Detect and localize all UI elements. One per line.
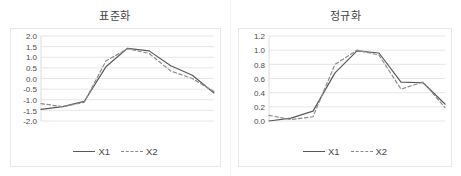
legend-normalization: X1 X2 <box>239 146 451 157</box>
y-axis-tick-label: 2.0 <box>26 32 38 41</box>
y-axis-tick-label: -1.0 <box>23 96 37 105</box>
legend-label-x2: X2 <box>146 146 158 157</box>
chart-panel-standardization: 표준화 2.01.51.00.50.0-0.5-1.0-1.5-2.0 X1 X… <box>0 0 230 176</box>
legend-entry-x2: X2 <box>121 146 158 157</box>
y-axis-tick-label: -1.5 <box>23 107 37 116</box>
y-axis-tick-label: 0.6 <box>254 75 266 84</box>
legend-line-swatch-solid-icon <box>303 147 325 156</box>
legend-entry-x1: X1 <box>303 146 340 157</box>
y-axis-tick-label: -2.0 <box>23 117 37 126</box>
y-axis-tick-label: 1.5 <box>26 43 38 52</box>
y-axis-tick-label: 0.2 <box>254 103 266 112</box>
y-axis-tick-label: -0.5 <box>23 85 37 94</box>
y-axis-tick-label: 1.0 <box>254 46 266 55</box>
y-axis-tick-label: 0.0 <box>26 75 38 84</box>
legend-line-swatch-dashed-icon <box>121 147 143 156</box>
legend-standardization: X1 X2 <box>11 146 220 157</box>
legend-label-x1: X1 <box>98 146 110 157</box>
chart-panel-normalization: 정규화 1.21.00.80.60.40.20.0 X1 X2 <box>230 0 461 176</box>
plot-frame-normalization: 1.21.00.80.60.40.20.0 X1 X2 <box>238 28 452 167</box>
legend-line-swatch-dashed-icon <box>351 147 373 156</box>
legend-entry-x1: X1 <box>73 146 110 157</box>
series-line-x2 <box>269 50 445 119</box>
series-line-x1 <box>269 51 445 121</box>
y-axis-tick-label: 1.2 <box>254 32 266 41</box>
legend-label-x2: X2 <box>376 146 388 157</box>
y-axis-tick-label: 1.0 <box>26 53 38 62</box>
y-axis-tick-label: 0.0 <box>254 117 266 126</box>
plot-frame-standardization: 2.01.51.00.50.0-0.5-1.0-1.5-2.0 X1 X2 <box>10 28 221 167</box>
legend-line-swatch-solid-icon <box>73 147 95 156</box>
legend-entry-x2: X2 <box>351 146 388 157</box>
y-axis-tick-label: 0.8 <box>254 61 266 70</box>
y-axis-tick-label: 0.4 <box>254 89 266 98</box>
legend-label-x1: X1 <box>328 146 340 157</box>
y-axis-tick-label: 0.5 <box>26 64 38 73</box>
chart-title-standardization: 표준화 <box>0 7 230 23</box>
two-panel-line-chart-figure: 표준화 2.01.51.00.50.0-0.5-1.0-1.5-2.0 X1 X… <box>0 0 461 176</box>
chart-title-normalization: 정규화 <box>230 7 461 23</box>
